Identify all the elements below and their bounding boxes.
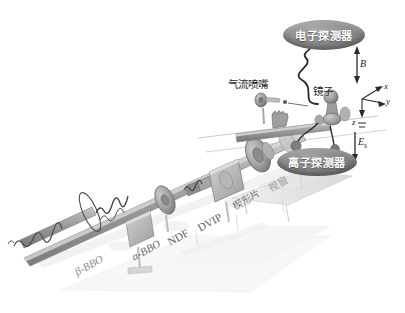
magnetic-field-label: B: [360, 59, 366, 69]
axis-y-label: y: [386, 97, 390, 106]
gas-nozzle-label: 气流喷嘴: [228, 79, 268, 90]
axis-x-label: x: [384, 82, 388, 91]
electron-detector-label: 电子探测器: [283, 20, 365, 50]
axis-z-label: z: [352, 118, 356, 127]
mirror-label: 镜子: [313, 86, 333, 97]
input-laser-pulse: [8, 190, 105, 248]
figure-canvas: 电子探测器 离子探测器 气流喷嘴 镜子 B Es x y z β-BBO α-B…: [0, 0, 405, 313]
coordinate-axes: [358, 86, 386, 127]
static-field-label: Es: [358, 137, 367, 150]
static-field-subscript: s: [364, 141, 367, 150]
ion-detector-label: 离子探测器: [277, 148, 357, 176]
nozzle-bracket: [272, 111, 288, 129]
